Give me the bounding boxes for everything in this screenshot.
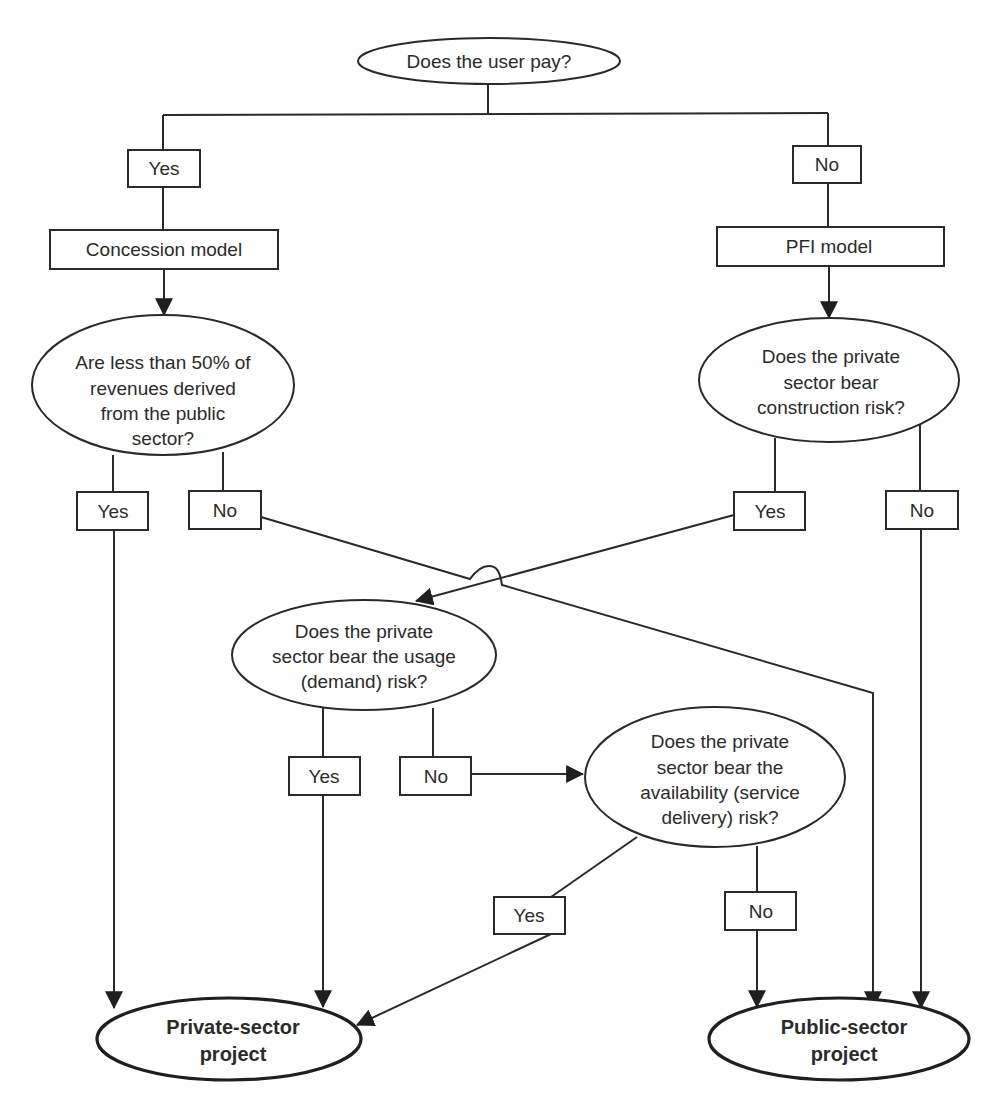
- label-yes-construction: Yes: [734, 492, 805, 530]
- process-pfi-model: PFI model: [717, 227, 944, 266]
- terminal-private-sector-project: Private-sector project: [97, 998, 361, 1080]
- svg-text:Does the private: Does the private: [651, 731, 789, 752]
- decision-user-pays: Does the user pay?: [358, 38, 620, 84]
- edge-yes-availability-to-private: [357, 934, 551, 1025]
- decision-usage-demand-risk: Does the private sector bear the usage (…: [232, 600, 496, 710]
- svg-text:No: No: [424, 766, 448, 787]
- label-yes-less-than-50: Yes: [77, 492, 148, 530]
- svg-text:Yes: Yes: [755, 501, 786, 522]
- label-yes-availability: Yes: [494, 897, 565, 934]
- svg-text:Does the private: Does the private: [295, 621, 433, 642]
- svg-text:Does the private: Does the private: [762, 346, 900, 367]
- svg-text:Yes: Yes: [149, 158, 180, 179]
- decision-construction-risk: Does the private sector bear constructio…: [699, 318, 959, 442]
- svg-text:Private-sector: Private-sector: [166, 1016, 300, 1038]
- label-no-user-pays: No: [793, 146, 861, 183]
- svg-text:delivery) risk?: delivery) risk?: [661, 807, 778, 828]
- svg-text:Yes: Yes: [98, 501, 129, 522]
- svg-text:project: project: [200, 1043, 267, 1065]
- svg-text:project: project: [811, 1043, 878, 1065]
- decision-user-pays-text: Does the user pay?: [407, 51, 572, 72]
- decision-availability-risk: Does the private sector bear the availab…: [585, 707, 845, 847]
- svg-text:No: No: [749, 901, 773, 922]
- svg-text:sector bear the: sector bear the: [657, 757, 784, 778]
- svg-text:revenues derived: revenues derived: [90, 378, 236, 399]
- process-concession-model: Concession model: [50, 230, 278, 269]
- svg-text:(demand) risk?: (demand) risk?: [301, 671, 428, 692]
- edge-split-horizontal: [163, 113, 828, 115]
- label-yes-user-pays: Yes: [128, 150, 200, 187]
- svg-text:Yes: Yes: [514, 905, 545, 926]
- svg-text:sector?: sector?: [132, 428, 194, 449]
- ppp-classification-flowchart: Does the user pay? Yes No Concession mod…: [0, 0, 1000, 1108]
- terminal-public-sector-project: Public-sector project: [709, 998, 969, 1080]
- label-no-availability: No: [725, 892, 796, 930]
- edge-availability-to-yes: [551, 837, 637, 897]
- svg-text:Public-sector: Public-sector: [781, 1016, 908, 1038]
- svg-text:Yes: Yes: [309, 766, 340, 787]
- svg-text:availability (service: availability (service: [640, 782, 799, 803]
- svg-text:No: No: [910, 500, 934, 521]
- svg-text:construction risk?: construction risk?: [757, 397, 905, 418]
- label-no-construction: No: [886, 491, 958, 529]
- svg-text:sector bear: sector bear: [783, 372, 879, 393]
- svg-text:Concession model: Concession model: [86, 239, 242, 260]
- svg-text:No: No: [815, 154, 839, 175]
- label-no-less-than-50: No: [189, 491, 261, 529]
- svg-text:sector bear the usage: sector bear the usage: [272, 646, 456, 667]
- svg-text:Are less than 50% of: Are less than 50% of: [75, 352, 251, 373]
- label-no-usage: No: [400, 757, 471, 795]
- label-yes-usage: Yes: [289, 757, 360, 795]
- svg-text:PFI model: PFI model: [786, 236, 873, 257]
- decision-less-than-50-public-revenue: Are less than 50% of revenues derived fr…: [32, 315, 294, 455]
- svg-text:from the public: from the public: [101, 403, 226, 424]
- connectors: [113, 84, 921, 1025]
- edge-yes-construction-to-usage: [416, 515, 734, 601]
- svg-text:No: No: [213, 500, 237, 521]
